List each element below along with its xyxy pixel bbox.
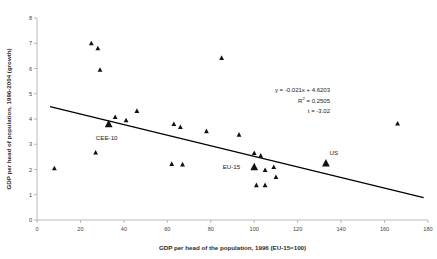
data-point-marker: [258, 153, 263, 158]
y-axis-tick-label: 2: [29, 167, 32, 173]
x-axis-tick-label: 160: [380, 226, 389, 232]
r-squared-text: R2 = 0.2505: [298, 96, 331, 103]
data-point-marker: [169, 161, 174, 166]
scatter-chart-container: 012345678020406080100120140160180 CEE-10…: [0, 0, 437, 259]
x-axis-tick-label: 0: [35, 226, 38, 232]
data-point-marker: [263, 183, 268, 188]
y-axis-tick-label: 1: [29, 192, 32, 198]
data-point-marker: [237, 132, 242, 137]
data-point-marker: [89, 41, 94, 46]
data-point-marker: [252, 150, 257, 155]
x-axis-tick-label: 20: [77, 226, 83, 232]
data-point-label: US: [330, 149, 339, 156]
chart-plot-area: 012345678020406080100120140160180 CEE-10…: [0, 0, 437, 259]
x-axis-tick-label: 40: [121, 226, 127, 232]
t-statistic-text: t = -3.02: [308, 108, 331, 114]
data-point-marker: [98, 67, 103, 72]
data-point-label: CEE-10: [96, 134, 118, 141]
regression-equation-text: y = -0.021x + 4.6203: [275, 87, 331, 93]
axis-titles-group: GDP per head of the population, 1996 (EU…: [5, 48, 306, 251]
point-labels-group: CEE-10EU-15US: [96, 134, 338, 170]
data-point-marker: [271, 164, 276, 169]
y-axis-tick-label: 4: [29, 116, 32, 122]
y-axis-tick-label: 3: [29, 141, 32, 147]
regression-trendline: [50, 107, 424, 198]
data-point-marker: [113, 114, 118, 119]
x-axis-tick-label: 60: [164, 226, 170, 232]
y-axis-tick-label: 7: [29, 40, 32, 46]
data-point-label: EU-15: [223, 163, 241, 170]
x-axis-tick-label: 80: [208, 226, 214, 232]
data-point-marker: [219, 55, 224, 60]
data-point-marker: [250, 163, 258, 170]
y-axis-tick-label: 6: [29, 66, 32, 72]
data-point-marker: [204, 129, 209, 134]
x-axis-tick-label: 100: [250, 226, 259, 232]
y-axis-tick-label: 8: [29, 15, 32, 21]
x-axis-tick-label: 140: [336, 226, 345, 232]
data-point-marker: [395, 121, 400, 126]
y-axis-tick-label: 0: [29, 217, 32, 223]
data-point-marker: [322, 159, 330, 166]
x-axis-tick-label: 180: [423, 226, 432, 232]
x-axis-title: GDP per head of the population, 1996 (EU…: [159, 244, 306, 251]
axes-group: 012345678020406080100120140160180: [29, 15, 433, 232]
data-point-marker: [254, 183, 259, 188]
data-point-marker: [95, 46, 100, 51]
data-point-marker: [274, 174, 279, 179]
data-point-marker: [171, 121, 176, 126]
data-point-marker: [135, 108, 140, 113]
data-point-marker: [52, 166, 57, 171]
data-point-marker: [124, 118, 129, 123]
x-axis-tick-label: 120: [293, 226, 302, 232]
data-point-marker: [178, 124, 183, 129]
y-axis-title: GDP per head of population, 1996-2004 (g…: [5, 48, 12, 189]
data-point-marker: [93, 150, 98, 155]
y-axis-tick-label: 5: [29, 91, 32, 97]
trendline: [50, 107, 424, 198]
data-point-marker: [263, 167, 268, 172]
regression-annotation: y = -0.021x + 4.6203R2 = 0.2505t = -3.02: [275, 87, 331, 114]
data-point-marker: [180, 162, 185, 167]
